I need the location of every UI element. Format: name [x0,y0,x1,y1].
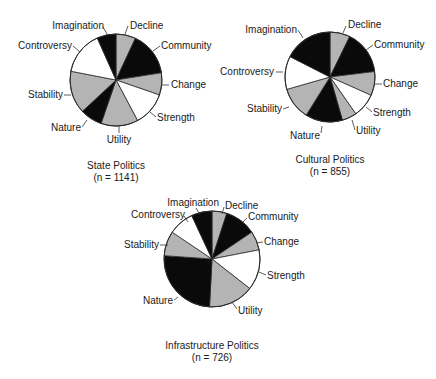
chart-title: Infrastructure Politics [132,340,292,352]
slice-label-nature: Nature [290,130,320,141]
caption-infrastructure-politics: Infrastructure Politics (n = 726) [132,340,292,364]
slice-label-nature: Nature [143,295,173,306]
leader-line [352,120,355,130]
slice-label-imagination: Imagination [245,24,297,35]
slice-label-utility: Utility [107,134,131,145]
slice-label-controversy: Controversy [220,66,274,77]
pie-cultural-politics: DeclineCommunityChangeStrengthUtilityNat… [220,19,424,141]
leader-line [232,302,237,309]
caption-cultural-politics: Cultural Politics (n = 855) [250,154,410,178]
slice-label-decline: Decline [130,20,164,31]
pie-chart-figure: DeclineCommunityChangeStrengthUtilityNat… [0,0,436,379]
pie-state-politics: DeclineCommunityChangeStrengthUtilityNat… [18,20,211,145]
slice-label-community: Community [248,211,299,222]
leader-line [174,297,178,300]
leader-line [283,107,289,109]
leader-line [242,218,247,223]
slice-label-controversy: Controversy [18,40,72,51]
leader-line [366,107,372,112]
slice-label-utility: Utility [356,125,380,136]
slice-label-change: Change [171,79,206,90]
slice-label-community: Community [161,40,212,51]
slice-label-imagination: Imagination [167,197,219,208]
slice-label-stability: Stability [28,89,63,100]
leader-line [259,272,266,275]
leader-line [153,46,160,51]
slice-label-stability: Stability [124,239,159,250]
slice-label-decline: Decline [348,19,382,30]
sample-size: (n = 855) [250,166,410,178]
chart-title: Cultural Politics [250,154,410,166]
slice-label-nature: Nature [51,122,81,133]
slice-label-imagination: Imagination [52,20,104,31]
pie-infrastructure-politics: DeclineCommunityChangeStrengthUtilityNat… [124,197,305,316]
slice-label-decline: Decline [225,200,259,211]
leader-line [343,26,346,33]
slice-label-controversy: Controversy [131,209,185,220]
slice-label-change: Change [264,236,299,247]
slice-label-utility: Utility [238,305,262,316]
leader-line [298,30,303,38]
slice-label-stability: Stability [247,103,282,114]
leader-line [125,26,128,34]
leader-line [82,120,87,127]
leader-line [257,242,263,243]
slice-label-strength: Strength [267,270,305,281]
slice-label-community: Community [374,39,425,50]
slice-label-strength: Strength [157,112,195,123]
leader-line [73,46,80,52]
chart-title: State Politics [36,160,196,172]
leader-line [321,126,322,133]
caption-state-politics: State Politics (n = 1141) [36,160,196,184]
leader-line [366,45,373,50]
leader-line [150,112,156,117]
sample-size: (n = 1141) [36,172,196,184]
pie-charts-canvas: DeclineCommunityChangeStrengthUtilityNat… [0,0,436,379]
slice-label-change: Change [383,78,418,89]
sample-size: (n = 726) [132,352,292,364]
slice-label-strength: Strength [373,107,411,118]
